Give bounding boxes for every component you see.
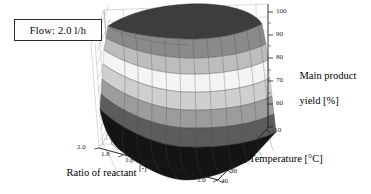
z-tick-60: 60	[276, 99, 283, 107]
z-tick-100: 100	[276, 7, 287, 15]
x-tick-30: 30	[230, 167, 237, 175]
z-axis-label-line1: Main product	[300, 70, 357, 81]
y-tick-1-2: 1.2	[173, 169, 182, 177]
y-tick-2-0: 2.0	[77, 143, 86, 151]
y-axis-label-line1: Ratio of reactant	[67, 167, 137, 178]
z-tick-70: 70	[276, 76, 283, 84]
y-axis-label-line2: concentrations	[67, 192, 128, 194]
z-tick-80: 80	[276, 53, 283, 61]
x-axis-label: Temperature [°C]	[249, 153, 323, 166]
x-tick-40: 40	[221, 177, 228, 185]
y-tick-1-0: 1.0	[197, 176, 206, 184]
flow-annotation-box: Flow: 2.0 l/h	[14, 19, 102, 41]
flow-annotation-text: Flow: 2.0 l/h	[30, 25, 87, 36]
z-axis-label-line2: yield [%]	[300, 95, 339, 106]
x-tick-0: 0	[263, 137, 267, 145]
z-tick-90: 90	[276, 30, 283, 38]
z-axis-label: Main product yield [%]	[289, 57, 369, 120]
surface-plot-figure: Flow: 2.0 l/h 100 90 80 70 60 Main produ…	[0, 0, 371, 193]
x-tick-20: 20	[240, 157, 247, 165]
y-axis-label: Ratio of reactant concentrations	[56, 154, 166, 193]
x-tick-minus10: -10	[272, 126, 281, 134]
y-axis-unit: [-]	[139, 163, 147, 176]
